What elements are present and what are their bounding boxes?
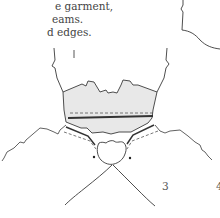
marker-dot-right: [129, 157, 131, 159]
marker-dot-left: [93, 156, 95, 158]
sleeve-left: [2, 125, 66, 161]
sleeve-right: [155, 125, 212, 160]
sewing-diagram: [0, 0, 220, 218]
tie-right: [113, 165, 155, 206]
step-number-4: 4: [216, 180, 220, 192]
garment-side-left: [52, 48, 63, 92]
garment-outline-right: [181, 0, 220, 49]
stitch-line-lower-right: [127, 131, 158, 149]
tie-left: [65, 165, 112, 205]
garment-side-right: [157, 48, 169, 92]
yoke-panel: [63, 80, 157, 134]
neck-opening: [97, 141, 126, 165]
step-number-3: 3: [162, 180, 169, 192]
